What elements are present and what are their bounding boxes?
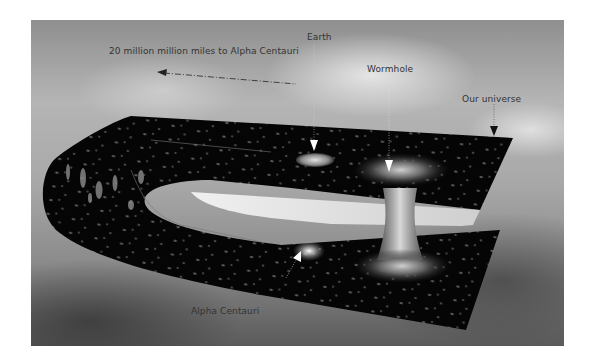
our-universe-pointer-arrow <box>490 126 498 136</box>
wormhole-upper-mouth <box>353 153 449 187</box>
wormhole-illustration: 20 million million miles to Alpha Centau… <box>31 20 564 346</box>
earth-label: Earth <box>307 32 332 42</box>
wormhole-lower-mouth <box>354 249 450 283</box>
distance-arrow-head <box>157 69 167 76</box>
folded-universe-diagram <box>31 20 564 346</box>
earth <box>296 153 334 167</box>
wormhole-label: Wormhole <box>367 64 413 74</box>
distance-arrow-line <box>164 73 296 84</box>
alpha-centauri-label: Alpha Centauri <box>191 306 259 316</box>
distance-label: 20 million million miles to Alpha Centau… <box>109 46 299 56</box>
our-universe-label: Our universe <box>462 94 521 104</box>
